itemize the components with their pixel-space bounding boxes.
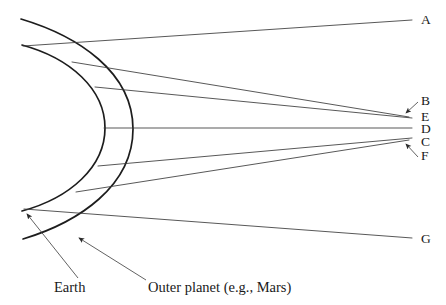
ray-label-c: C (421, 134, 430, 149)
earth-caption: Earth (54, 279, 86, 295)
ray-label-b: B (421, 93, 430, 108)
ray-label-g: G (421, 231, 431, 246)
diagram-canvas: A B E D C F G Earth Outer planet (e.g., … (0, 0, 446, 305)
outer-planet-callout-leader (79, 238, 146, 280)
earth-orbit-arc (22, 45, 105, 211)
pointer-arrow-f (406, 144, 418, 157)
earth-callout-leader (27, 214, 78, 278)
sight-line-f (76, 140, 409, 192)
ray-label-a: A (421, 12, 431, 27)
sight-line-c (98, 138, 412, 166)
sight-line-a (23, 20, 412, 46)
pointer-arrow-b (406, 102, 418, 113)
parallax-diagram: A B E D C F G Earth Outer planet (e.g., … (0, 0, 446, 305)
sight-line-g (24, 209, 412, 238)
ray-label-f: F (421, 148, 429, 163)
outer-planet-caption: Outer planet (e.g., Mars) (148, 279, 292, 296)
